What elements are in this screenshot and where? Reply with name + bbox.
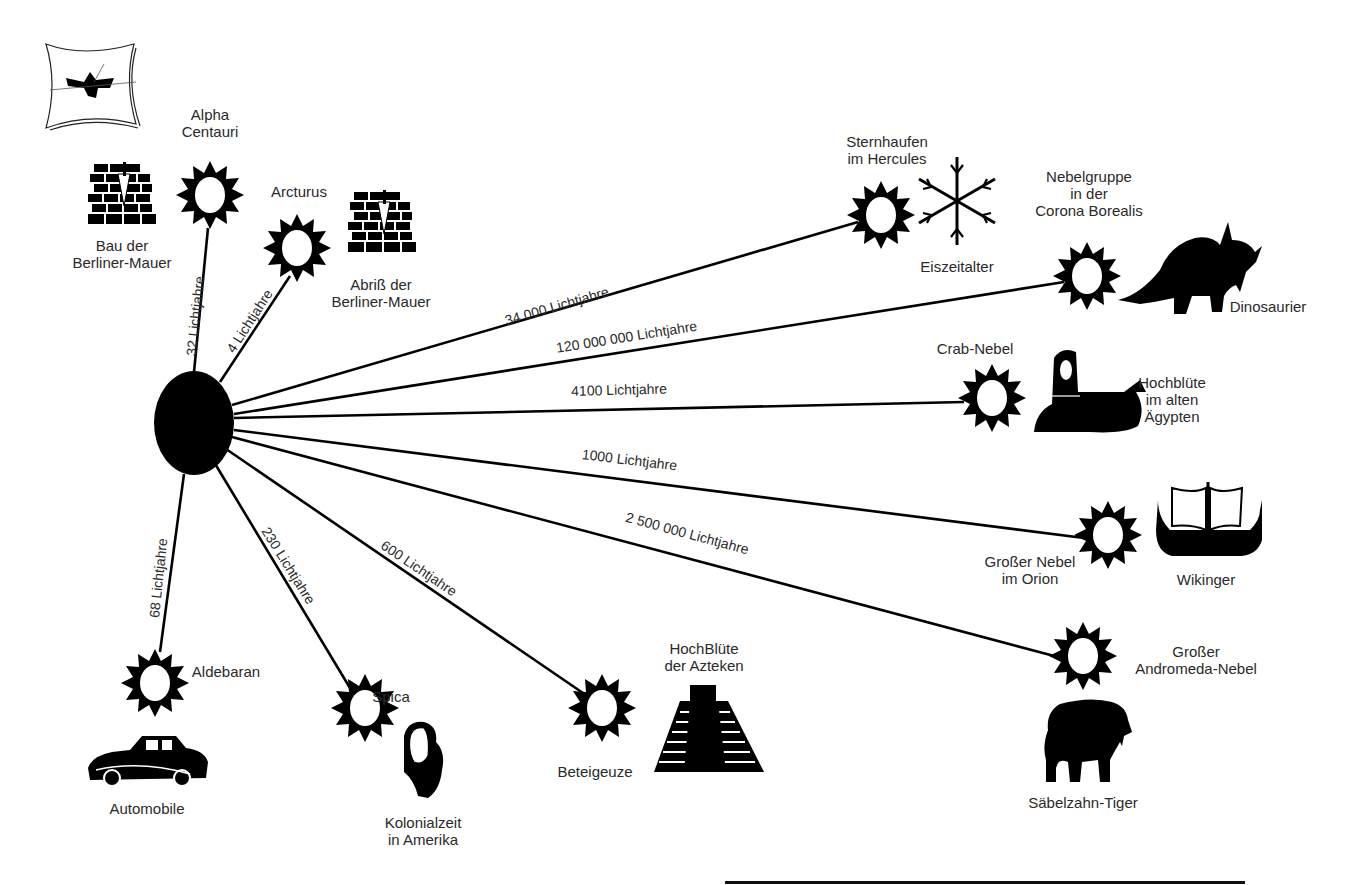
sabertooth-tiger-icon	[1044, 699, 1132, 782]
label-aldebaran: Aldebaran	[192, 663, 260, 680]
bottom-rule-divider	[725, 881, 1245, 884]
label-grosser-nebel-orion: Großer Nebel im Orion	[985, 553, 1076, 587]
label-arcturus: Arcturus	[271, 183, 327, 200]
vintage-car-icon	[88, 736, 208, 786]
label-andromeda-nebel: Großer Andromeda-Nebel	[1135, 643, 1257, 677]
exploding-window-logo-icon	[46, 44, 140, 130]
label-saebelzahn-tiger: Säbelzahn-Tiger	[1028, 794, 1138, 811]
sun-icon-crab	[958, 364, 1026, 432]
label-hochbluete-aegypten: Hochblüte im alten Ägypten	[1138, 374, 1206, 425]
line-andromeda	[232, 437, 1058, 657]
label-alpha-centauri: Alpha Centauri	[182, 106, 239, 140]
sun-icon-beteigeuze	[568, 674, 636, 742]
aztec-pyramid-icon	[654, 685, 764, 772]
line-spica	[214, 462, 353, 693]
sun-icon-spica	[331, 674, 399, 742]
distance-4100-lichtjahre: 4100 Lichtjahre	[571, 380, 667, 399]
viking-ship-icon	[1156, 482, 1262, 556]
label-hochbluete-azteken: HochBlüte der Azteken	[664, 640, 743, 674]
label-wikinger: Wikinger	[1177, 571, 1235, 588]
label-eiszeitalter: Eiszeitalter	[920, 258, 993, 275]
sun-icon-alpha-centauri	[176, 161, 244, 229]
sphinx-icon	[1034, 350, 1146, 432]
label-beteigeuze: Beteigeuze	[557, 763, 632, 780]
sun-icon-aldebaran	[121, 649, 189, 717]
label-abriss-berliner-mauer: Abriß der Berliner-Mauer	[331, 276, 430, 310]
snowflake-icon	[919, 157, 995, 245]
brick-wall-icon	[348, 190, 416, 256]
label-sternhaufen-hercules: Sternhaufen im Hercules	[846, 133, 928, 167]
sun-icon-andromeda	[1049, 622, 1117, 690]
sun-icon-arcturus	[263, 214, 331, 282]
colonial-portrait-icon	[404, 722, 443, 798]
sun-icon-orion	[1074, 501, 1142, 569]
label-spica: Spica	[372, 688, 410, 705]
line-crab	[234, 402, 964, 418]
sun-icon-hercules	[847, 181, 915, 249]
label-dinosaurier: Dinosaurier	[1230, 298, 1307, 315]
label-corona-borealis: Nebelgruppe in der Corona Borealis	[1035, 168, 1143, 219]
label-kolonialzeit-amerika: Kolonialzeit in Amerika	[385, 814, 462, 848]
earth-node	[154, 371, 234, 475]
brick-wall-icon	[88, 162, 156, 228]
sun-icon-corona	[1053, 242, 1121, 310]
label-bau-berliner-mauer: Bau der Berliner-Mauer	[72, 237, 171, 271]
line-arcturus	[220, 276, 290, 382]
label-automobile: Automobile	[109, 800, 184, 817]
label-crab-nebel: Crab-Nebel	[937, 340, 1014, 357]
